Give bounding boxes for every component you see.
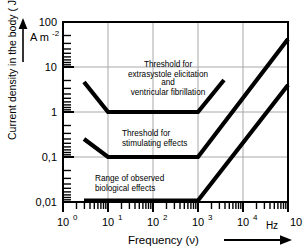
xtick-label-1e0-exponent: 0 xyxy=(73,213,78,222)
x-axis-unit-hz: Hz xyxy=(266,220,278,231)
xtick-label-1e3-mantissa: 10 xyxy=(192,216,204,228)
xtick-label-1e2-mantissa: 10 xyxy=(147,216,159,228)
xtick-label-1e4-mantissa: 10 xyxy=(237,216,249,228)
ytick-label-1: 1 xyxy=(51,106,57,118)
ytick-label-0.01: 0,01 xyxy=(36,196,57,208)
xtick-label-1e3-exponent: 3 xyxy=(208,213,213,222)
anno-stimulating-line-1: Threshold for xyxy=(122,129,171,138)
ytick-label-0.1: 0,1 xyxy=(42,151,57,163)
xtick-label-1e1-mantissa: 10 xyxy=(102,216,114,228)
anno-extrasystole-line-3: and xyxy=(161,78,175,87)
ytick-label-10: 10 xyxy=(45,61,57,73)
anno-biological-line-1: Range of observed xyxy=(95,174,165,183)
figure-log-log-current-density-chart: 100 10 1 0,1 0,01 A m -2 10 0 10 1 10 2 … xyxy=(0,0,305,252)
xtick-label-1e1-exponent: 1 xyxy=(118,213,123,222)
x-axis-title: Frequency (ν) xyxy=(128,234,199,246)
ytick-label-100: 100 xyxy=(39,16,57,28)
y-axis-unit-text: A m xyxy=(30,31,49,43)
anno-biological-line-2: biological effects xyxy=(95,184,155,193)
xtick-label-1e2-exponent: 2 xyxy=(163,213,168,222)
xtick-label-1e4-exponent: 4 xyxy=(253,213,258,222)
xtick-label-1e5-mantissa: 10 xyxy=(290,216,302,228)
y-axis-unit-exponent: -2 xyxy=(52,29,60,38)
anno-stimulating-line-2: stimulating effects xyxy=(122,139,187,148)
anno-biological: Range of observed biological effects xyxy=(95,174,165,193)
y-axis-title: Current density in the body ( J ) xyxy=(6,0,18,140)
chart-svg: 100 10 1 0,1 0,01 A m -2 10 0 10 1 10 2 … xyxy=(0,0,305,252)
anno-extrasystole-line-4: ventricular fibrillation xyxy=(131,88,206,97)
xtick-label-1e0-mantissa: 10 xyxy=(57,216,69,228)
anno-extrasystole-line-1: Threshold for xyxy=(144,60,193,69)
